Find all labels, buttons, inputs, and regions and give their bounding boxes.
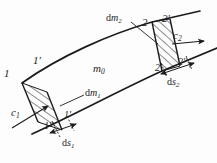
leader-line-dm1 xyxy=(60,95,84,106)
label-velocity-c2: c2 xyxy=(173,30,182,42)
label-point-2: 2 xyxy=(142,17,148,28)
label-point-2-prime: 2' xyxy=(162,13,170,24)
label-core-mass-m0: m0 xyxy=(93,63,105,75)
stream-tube-diagram: 1 1' 1'' 1' 2 2' 2' 2'' m0 dm1 dm2 c1 c2… xyxy=(0,0,217,163)
label-point-1: 1 xyxy=(4,68,10,79)
label-dm1: dm1 xyxy=(85,88,101,99)
core-mass-symbol: m xyxy=(93,62,101,74)
label-point-1-prime-lower: 1' xyxy=(64,110,71,120)
ds1-subscript: 1 xyxy=(71,142,74,149)
c2-subscript: 2 xyxy=(178,34,182,43)
label-velocity-c1: c1 xyxy=(11,107,20,119)
label-ds1: ds1 xyxy=(62,138,74,149)
lower-boundary-curve xyxy=(32,48,217,134)
label-ds2: ds2 xyxy=(167,77,179,88)
label-point-2-prime-lower: 2' xyxy=(155,63,162,73)
label-point-1-prime: 1' xyxy=(33,55,41,66)
core-mass-subscript: 0 xyxy=(101,67,105,76)
c1-subscript: 1 xyxy=(16,111,20,120)
label-point-1-double-prime-lower: 1'' xyxy=(44,121,53,131)
label-point-2-double-prime-lower: 2'' xyxy=(178,57,187,67)
dm1-subscript: 1 xyxy=(97,92,100,99)
dm2-subscript: 2 xyxy=(118,17,121,24)
label-dm2: dm2 xyxy=(106,13,122,24)
ds2-subscript: 2 xyxy=(176,81,179,88)
